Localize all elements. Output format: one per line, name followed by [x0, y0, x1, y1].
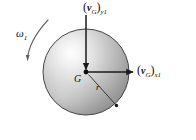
velocity-y-component-subscript: y1	[101, 8, 108, 16]
angular-velocity-symbol: ω	[16, 27, 24, 39]
angular-velocity-subscript: 1	[24, 34, 28, 42]
velocity-y-label: (vG)y1	[83, 1, 107, 16]
angular-velocity-label: ω1	[16, 28, 27, 42]
velocity-x-component-subscript: x1	[155, 71, 162, 79]
center-of-mass-point	[84, 70, 89, 75]
angular-velocity-arc	[28, 20, 49, 60]
velocity-x-label: (vG)x1	[137, 64, 161, 79]
radius-label: r	[96, 83, 100, 92]
diagram-canvas	[0, 0, 196, 140]
physics-diagram-figure: (vG)y1 (vG)x1 ω1 G r	[0, 0, 196, 140]
radius-endpoint-dot	[115, 104, 118, 107]
center-of-mass-label: G	[74, 74, 81, 84]
